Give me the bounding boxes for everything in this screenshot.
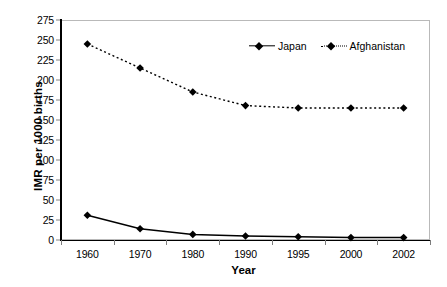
y-axis-tick-label: 25 xyxy=(24,215,54,225)
x-axis-tick-mark xyxy=(114,240,115,245)
y-axis-tick-label: 125 xyxy=(24,135,54,145)
data-point-marker-japan xyxy=(242,232,250,240)
y-axis-tick-labels: 2752502252001751501251007550250 xyxy=(22,0,54,287)
data-point-marker-afghanistan xyxy=(294,104,302,112)
x-axis-tick-mark xyxy=(166,240,167,245)
y-axis-tick-label: 200 xyxy=(24,75,54,85)
y-axis-tick-label: 150 xyxy=(24,115,54,125)
x-axis-tick-label: 2000 xyxy=(321,248,381,260)
legend-label-japan: Japan xyxy=(278,40,307,52)
data-point-marker-japan xyxy=(294,233,302,241)
chart-container: IMR per 1000 births 27525022520017515012… xyxy=(0,0,447,287)
data-point-marker-afghanistan xyxy=(189,88,197,96)
legend-item-japan[interactable]: Japan xyxy=(249,40,307,52)
x-axis-tick-mark xyxy=(219,240,220,245)
data-point-marker-afghanistan xyxy=(400,104,408,112)
y-axis-tick-label: 175 xyxy=(24,95,54,105)
x-axis-tick-mark xyxy=(377,240,378,245)
x-axis-tick-mark xyxy=(272,240,273,245)
y-axis-tick-label: 100 xyxy=(24,155,54,165)
data-point-marker-afghanistan xyxy=(347,104,355,112)
legend-label-afghanistan: Afghanistan xyxy=(350,40,405,52)
y-axis-tick-label: 75 xyxy=(24,175,54,185)
data-point-marker-japan xyxy=(136,225,144,233)
x-axis-tick-label: 1970 xyxy=(110,248,170,260)
x-axis-tick-label: 1960 xyxy=(57,248,117,260)
legend-marker-japan xyxy=(249,41,275,51)
legend-item-afghanistan[interactable]: Afghanistan xyxy=(321,40,405,52)
y-axis-tick-label: 250 xyxy=(24,35,54,45)
data-point-marker-afghanistan xyxy=(84,40,92,48)
data-point-marker-afghanistan xyxy=(242,102,250,110)
x-axis-tick-mark xyxy=(325,240,326,245)
data-point-marker-japan xyxy=(84,211,92,219)
y-axis-tick-label: 225 xyxy=(24,55,54,65)
y-axis-tick-label: 0 xyxy=(24,235,54,245)
chart-legend: Japan Afghanistan xyxy=(249,38,405,54)
x-axis-title: Year xyxy=(0,264,447,276)
x-axis-tick-label: 1990 xyxy=(216,248,276,260)
x-axis-tick-label: 2002 xyxy=(374,248,434,260)
legend-marker-afghanistan xyxy=(321,41,347,51)
x-axis-tick-label: 1980 xyxy=(163,248,223,260)
x-axis-tick-mark xyxy=(430,240,431,245)
x-axis-tick-mark xyxy=(61,240,62,245)
data-point-marker-afghanistan xyxy=(136,64,144,72)
data-point-marker-japan xyxy=(189,231,197,239)
x-axis-tick-label: 1995 xyxy=(268,248,328,260)
y-axis-tick-label: 275 xyxy=(24,15,54,25)
y-axis-tick-label: 50 xyxy=(24,195,54,205)
